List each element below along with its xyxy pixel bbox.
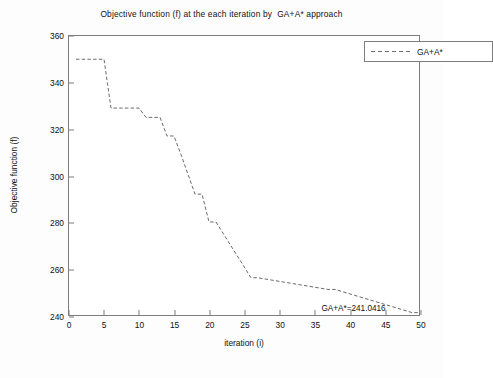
x-tick-mark [209, 310, 210, 315]
x-tick-mark [280, 310, 281, 315]
chart-title: Objective function (f) at the each itera… [0, 9, 443, 19]
x-tick-mark [421, 310, 422, 315]
x-tick-label: 50 [416, 320, 425, 330]
y-tick-label: 320 [50, 125, 64, 135]
y-tick-mark [69, 82, 74, 83]
y-tick-label: 360 [50, 31, 64, 41]
y-tick-mark [69, 36, 74, 37]
y-tick-label: 280 [50, 218, 64, 228]
x-tick-label: 30 [276, 320, 285, 330]
x-tick-mark [104, 310, 105, 315]
plot-area: 240260280300320340360 051015202530354045… [68, 35, 420, 316]
x-tick-label: 15 [170, 320, 179, 330]
x-tick-label: 5 [102, 320, 107, 330]
x-tick-label: 40 [346, 320, 355, 330]
x-tick-mark [69, 310, 70, 315]
y-tick-mark [69, 223, 74, 224]
x-tick-mark [245, 310, 246, 315]
x-axis-label: iteration (i) [68, 338, 420, 348]
y-tick-mark [69, 317, 74, 318]
chart-legend: GA+A* [364, 41, 493, 62]
y-tick-mark [69, 129, 74, 130]
y-axis-label: Objective function (f) [9, 137, 19, 214]
y-tick-label: 300 [50, 172, 64, 182]
legend-label-ga-a-star: GA+A* [417, 47, 443, 57]
x-tick-label: 0 [67, 320, 72, 330]
y-tick-label: 240 [50, 312, 64, 322]
y-tick-label: 260 [50, 265, 64, 275]
x-tick-mark [139, 310, 140, 315]
x-tick-mark [315, 310, 316, 315]
y-tick-label: 340 [50, 78, 64, 88]
x-tick-label: 25 [240, 320, 249, 330]
x-tick-mark [174, 310, 175, 315]
legend-line-sample [371, 51, 411, 52]
x-tick-label: 35 [311, 320, 320, 330]
x-tick-label: 10 [135, 320, 144, 330]
x-tick-label: 20 [205, 320, 214, 330]
y-tick-mark [69, 176, 74, 177]
x-tick-label: 45 [381, 320, 390, 330]
y-tick-mark [69, 270, 74, 271]
annotation-final-value: GA+A*=241.0416 [321, 304, 385, 313]
series-ga-a-star-line [76, 59, 419, 312]
data-line-svg [69, 36, 419, 315]
